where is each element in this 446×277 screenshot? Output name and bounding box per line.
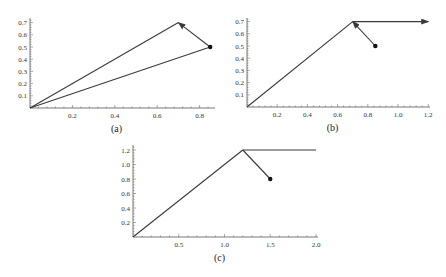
y-tick-label: 1.0 [121,161,130,169]
x-tick-label: 1.5 [266,241,275,249]
x-tick-label: 0.2 [273,111,282,119]
y-tick-label: 0.2 [121,219,130,227]
subplot-b: 0.20.40.60.81.01.20.10.20.30.40.50.60.7(… [235,18,433,134]
x-tick-label: 0.4 [303,111,312,119]
y-tick-label: 0.2 [235,79,244,87]
subplot-a: 0.20.40.60.80.10.20.30.40.50.60.7(a) [18,18,215,135]
y-tick-label: 0.7 [18,19,27,27]
subplot-c: 0.51.01.52.00.20.40.60.81.01.2(c) [121,145,321,264]
y-tick-label: 0.3 [235,67,244,75]
arrow-point-to-peak [178,23,210,47]
subplot-caption: (b) [327,122,339,134]
y-tick-label: 0.6 [235,30,244,38]
segment-point-to-peak [243,150,270,179]
x-tick-label: 1.2 [424,111,433,119]
x-tick-label: 0.6 [153,112,162,120]
segment-origin-to-peak [247,22,353,107]
subplot-caption: (c) [214,252,225,264]
y-tick-label: 0.1 [18,92,27,100]
y-tick-label: 0.4 [121,205,130,213]
y-tick-label: 0.3 [18,68,27,76]
x-tick-label: 2.0 [312,241,321,249]
x-tick-label: 0.5 [174,241,183,249]
x-tick-label: 0.2 [68,112,77,120]
y-tick-label: 0.6 [121,190,130,198]
x-tick-label: 0.6 [333,111,342,119]
y-tick-label: 0.5 [18,44,27,52]
y-tick-label: 0.4 [235,55,244,63]
x-tick-label: 0.4 [110,112,119,120]
y-tick-label: 1.2 [121,147,130,155]
y-tick-label: 0.5 [235,43,244,51]
x-tick-label: 1.0 [394,111,403,119]
data-point-marker [373,44,377,48]
y-tick-label: 0.8 [121,176,130,184]
y-tick-label: 0.2 [18,80,27,88]
x-tick-label: 1.0 [220,241,229,249]
x-tick-label: 0.8 [363,111,372,119]
x-tick-label: 0.8 [195,112,204,120]
y-tick-label: 0.6 [18,31,27,39]
data-point-marker [268,177,272,181]
y-tick-label: 0.7 [235,18,244,26]
figure: 0.20.40.60.80.10.20.30.40.50.60.7(a) 0.2… [0,0,446,277]
y-tick-label: 0.4 [18,56,27,64]
data-point-marker [208,45,212,49]
y-tick-label: 0.1 [235,91,244,99]
segment-origin-to-peak [133,150,243,237]
subplot-caption: (a) [111,123,122,135]
arrow-point-to-peak [353,22,376,46]
